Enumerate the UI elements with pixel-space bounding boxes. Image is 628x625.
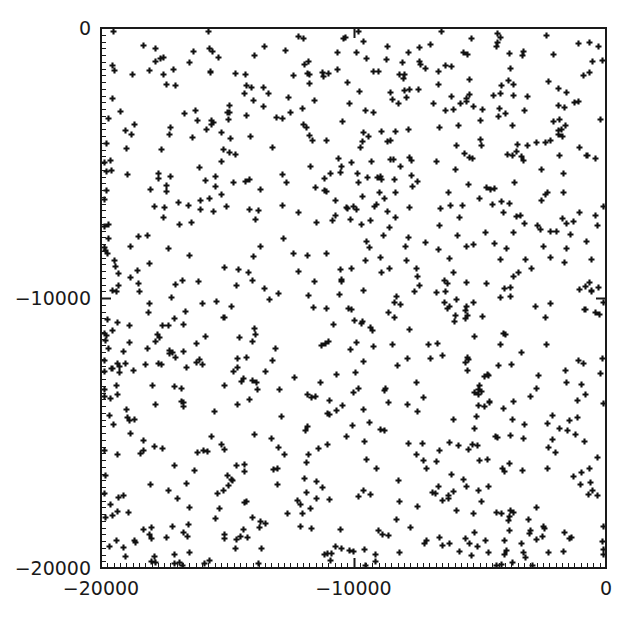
scatter-plot-canvas: 0−10000−20000−20000−100000 — [0, 0, 628, 625]
x-tick-label: −10000 — [315, 577, 391, 599]
x-tick-label: −20000 — [63, 577, 139, 599]
y-tick-label: −10000 — [15, 287, 91, 309]
scatter-plot-figure: 0−10000−20000−20000−100000 — [0, 0, 628, 625]
figure-background — [0, 0, 628, 625]
y-tick-label: 0 — [79, 17, 91, 39]
y-tick-label: −20000 — [15, 557, 91, 579]
x-tick-label: 0 — [600, 577, 612, 599]
